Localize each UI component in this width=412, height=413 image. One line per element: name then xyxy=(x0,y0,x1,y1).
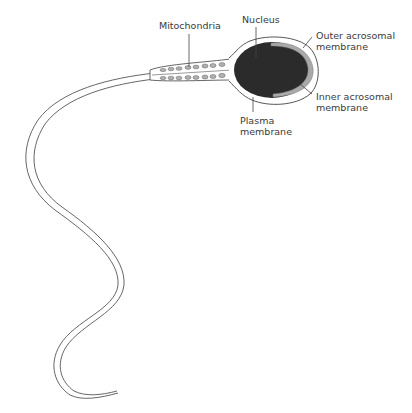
sperm-cell-diagram xyxy=(0,0,412,413)
label-outer-acrosomal-line2: membrane xyxy=(316,41,395,52)
label-nucleus-text: Nucleus xyxy=(242,14,280,25)
label-mitochondria-text: Mitochondria xyxy=(159,20,221,31)
midpiece xyxy=(150,59,232,81)
sperm-head xyxy=(229,37,318,104)
label-plasma-membrane: Plasma membrane xyxy=(240,115,292,137)
label-mitochondria: Mitochondria xyxy=(159,20,221,31)
label-inner-acrosomal-line1: Inner acrosomal xyxy=(316,91,393,102)
label-outer-acrosomal-line1: Outer acrosomal xyxy=(316,30,395,41)
label-outer-acrosomal-membrane: Outer acrosomal membrane xyxy=(316,30,395,52)
label-inner-acrosomal-membrane: Inner acrosomal membrane xyxy=(316,91,393,113)
label-plasma-line1: Plasma xyxy=(240,115,292,126)
label-plasma-line2: membrane xyxy=(240,126,292,137)
label-nucleus: Nucleus xyxy=(242,14,280,25)
label-inner-acrosomal-line2: membrane xyxy=(316,102,393,113)
flagellum xyxy=(26,73,155,398)
